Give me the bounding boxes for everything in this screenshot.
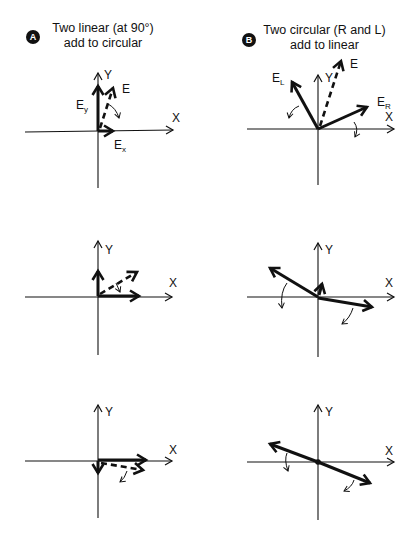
panel-a3: X Y <box>25 405 177 518</box>
y-axis-label: Y <box>104 68 112 82</box>
el-vector <box>292 82 318 129</box>
y-axis-label: Y <box>325 243 333 257</box>
rotation-arrow-icon <box>108 104 119 118</box>
y-axis-label: Y <box>105 405 113 419</box>
rotation-arrow-icon <box>289 106 299 118</box>
panel-b1: X Y E EL ER <box>247 57 394 185</box>
el-vector <box>270 268 318 297</box>
x-axis-label: X <box>385 276 393 290</box>
e-label: E <box>122 82 130 96</box>
panel-b2: X Y <box>247 243 394 357</box>
el-label: EL <box>272 71 285 87</box>
ex-label: Ex <box>114 138 126 154</box>
e-label: E <box>350 57 358 71</box>
rotation-arrow-icon <box>120 471 127 482</box>
x-axis-label: X <box>169 443 177 457</box>
rotation-arrow-icon <box>344 480 354 491</box>
y-axis-label: Y <box>325 405 333 419</box>
rotation-arrow-icon <box>342 308 353 324</box>
er-label: ER <box>377 95 391 111</box>
x-axis-label: X <box>385 110 393 124</box>
rotation-arrow-icon <box>282 283 287 308</box>
e-resultant-vector <box>100 272 137 294</box>
x-axis-label: X <box>385 444 393 458</box>
zero-resultant-dot <box>315 459 321 465</box>
e-resultant-vector <box>319 284 322 295</box>
x-axis-label: X <box>172 111 180 125</box>
ey-label: Ey <box>76 98 88 114</box>
panel-a1: X Y E Ey Ex <box>25 68 180 188</box>
x-axis-label: X <box>169 276 177 290</box>
e-resultant-vector <box>100 88 113 128</box>
er-vector <box>318 462 370 483</box>
er-vector <box>318 107 367 129</box>
panel-a2: X Y <box>25 241 177 355</box>
el-vector <box>270 444 318 462</box>
y-axis-label: Y <box>325 71 333 85</box>
panel-b3: X Y <box>247 405 394 520</box>
polarization-diagram: X Y E Ey Ex X Y E EL ER X <box>0 0 419 533</box>
er-vector <box>318 298 372 307</box>
y-axis-label: Y <box>105 243 113 257</box>
e-resultant-vector <box>101 463 143 470</box>
